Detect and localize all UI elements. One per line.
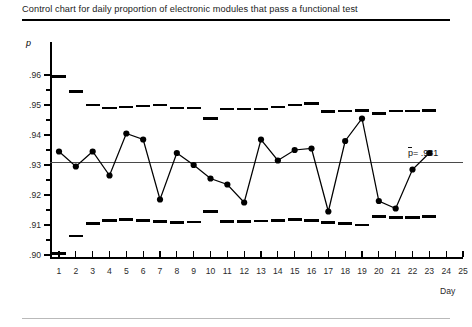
data-point-marker[interactable]	[359, 115, 365, 121]
p-bar-symbol: p	[408, 148, 413, 158]
data-point-marker[interactable]	[325, 208, 331, 214]
series-layer	[0, 0, 472, 327]
data-point-marker[interactable]	[123, 130, 129, 136]
centerline-value: = .931	[413, 148, 438, 158]
data-point-marker[interactable]	[106, 172, 112, 178]
data-point-marker[interactable]	[258, 136, 264, 142]
data-point-marker[interactable]	[342, 138, 348, 144]
data-point-marker[interactable]	[308, 145, 314, 151]
data-point-marker[interactable]	[393, 205, 399, 211]
data-point-marker[interactable]	[409, 166, 415, 172]
data-point-marker[interactable]	[292, 147, 298, 153]
data-point-marker[interactable]	[157, 196, 163, 202]
data-point-marker[interactable]	[224, 181, 230, 187]
data-point-marker[interactable]	[56, 148, 62, 154]
data-point-marker[interactable]	[207, 175, 213, 181]
data-point-marker[interactable]	[140, 136, 146, 142]
data-point-marker[interactable]	[90, 148, 96, 154]
data-point-marker[interactable]	[191, 162, 197, 168]
data-point-marker[interactable]	[376, 198, 382, 204]
figure-container: Control chart for daily proportion of el…	[0, 0, 472, 327]
data-point-marker[interactable]	[73, 163, 79, 169]
data-series-line	[59, 119, 429, 212]
data-point-marker[interactable]	[241, 199, 247, 205]
centerline-annotation: p= .931	[408, 148, 438, 158]
data-point-marker[interactable]	[275, 157, 281, 163]
data-point-marker[interactable]	[174, 150, 180, 156]
